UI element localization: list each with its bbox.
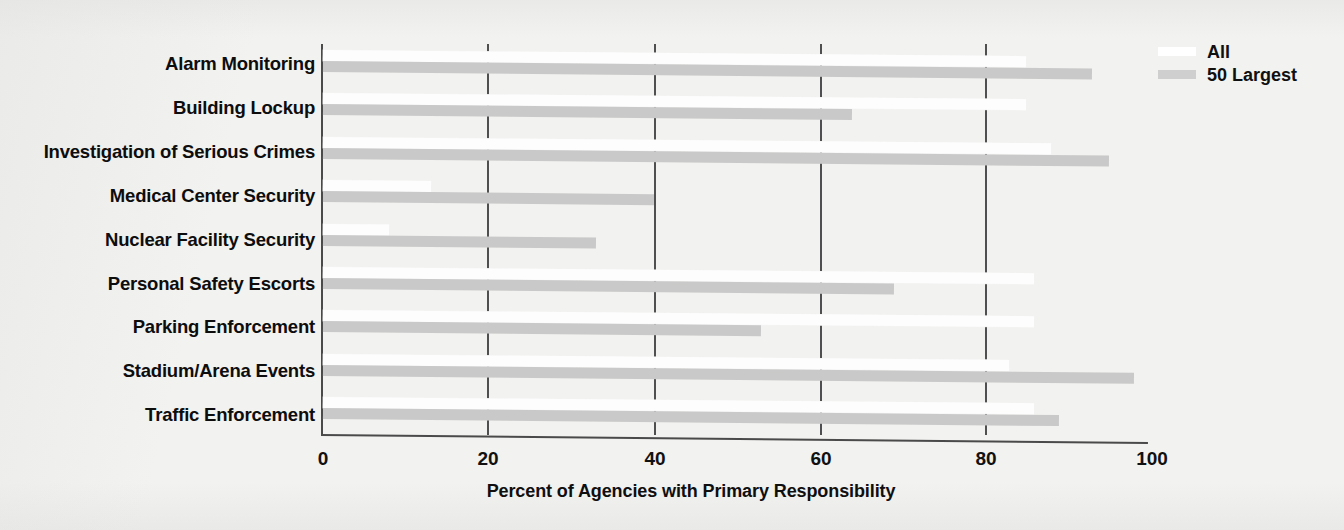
x-tick-80: 80 xyxy=(975,449,996,468)
bar-50-largest xyxy=(323,321,761,336)
category-label: Alarm Monitoring xyxy=(0,55,315,74)
legend-label-50-largest: 50 Largest xyxy=(1207,66,1297,84)
category-label: Medical Center Security xyxy=(0,187,315,206)
x-tick-60: 60 xyxy=(810,449,831,468)
bar-group xyxy=(323,348,1150,391)
bar-50-largest xyxy=(323,235,596,249)
category-label: Parking Enforcement xyxy=(0,318,315,337)
x-tick-20: 20 xyxy=(477,449,498,468)
category-label: Nuclear Facility Security xyxy=(0,231,315,250)
legend-entry-50-largest: 50 Largest xyxy=(1158,63,1338,86)
category-label: Stadium/Arena Events xyxy=(0,362,315,381)
category-label: Traffic Enforcement xyxy=(0,406,315,425)
horizontal-bar-chart: Alarm Monitoring Building Lockup Investi… xyxy=(0,0,1344,530)
bar-group xyxy=(323,174,1150,217)
bar-group xyxy=(323,87,1150,130)
bar-group xyxy=(323,261,1150,304)
x-axis-title: Percent of Agencies with Primary Respons… xyxy=(0,481,1344,502)
bar-group xyxy=(323,391,1150,434)
legend-swatch-all-icon xyxy=(1158,47,1196,56)
x-tick-40: 40 xyxy=(644,449,665,468)
category-label: Building Lockup xyxy=(0,99,315,118)
bar-all xyxy=(323,224,389,236)
category-label: Personal Safety Escorts xyxy=(0,275,315,294)
x-tick-100: 100 xyxy=(1136,449,1168,468)
legend-swatch-50-largest-icon xyxy=(1158,70,1196,79)
plot-area xyxy=(323,44,1150,435)
legend: All 50 Largest xyxy=(1158,40,1338,86)
x-axis-line xyxy=(321,434,1148,444)
bar-group xyxy=(323,218,1150,261)
bar-group xyxy=(323,44,1150,87)
bar-50-largest xyxy=(323,191,654,205)
x-axis-title-text: Percent of Agencies with Primary Respons… xyxy=(449,481,896,502)
legend-label-all: All xyxy=(1207,43,1230,61)
bar-group xyxy=(323,304,1150,347)
x-tick-0: 0 xyxy=(318,449,329,468)
category-label: Investigation of Serious Crimes xyxy=(0,143,315,162)
bar-group xyxy=(323,131,1150,174)
legend-entry-all: All xyxy=(1158,40,1338,63)
